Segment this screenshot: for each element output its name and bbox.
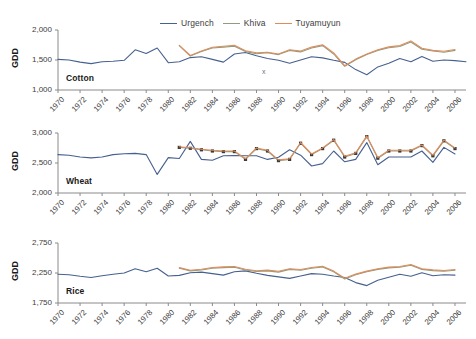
x-tick-label: 1972 [65, 198, 88, 221]
x-tick-label: 1978 [131, 198, 154, 221]
x-tick-label: 1994 [308, 198, 331, 221]
x-tick-label: 1984 [197, 198, 220, 221]
legend-item-khiva[interactable]: Khiva [223, 18, 266, 28]
x-tick-label: 1974 [87, 308, 110, 331]
x-tick-label: 1984 [197, 308, 220, 331]
x-tick-label: 1976 [109, 95, 132, 118]
x-tick-label: 1982 [175, 95, 198, 118]
x-tick-label: 1978 [131, 308, 154, 331]
x-tick-label: 2000 [374, 198, 397, 221]
x-tick-label: 1990 [264, 95, 287, 118]
x-tick-label: 1996 [330, 198, 353, 221]
x-tick-label: 1980 [153, 308, 176, 331]
x-tick-label: 1982 [175, 308, 198, 331]
legend-label-khiva: Khiva [244, 18, 266, 28]
x-tick-label: 1970 [43, 198, 66, 221]
x-tick-label: 1984 [197, 95, 220, 118]
panel-wheat: GDD2,0002,5003,000Wheat19701972197419761… [0, 133, 476, 223]
x-tick-label: 1992 [286, 198, 309, 221]
legend-label-urgench: Urgench [181, 18, 214, 28]
x-tick-label: 1978 [131, 95, 154, 118]
legend-label-tuyamuyun: Tuyamuyun [296, 18, 341, 28]
x-tick-label: 1988 [242, 308, 265, 331]
x-axis-labels-rice: 1970197219741976197819801982198419861988… [0, 306, 476, 339]
x-tick-label: 1982 [175, 198, 198, 221]
plot-area-rice [0, 243, 476, 305]
x-tick-label: 2002 [396, 308, 419, 331]
x-tick-label: 2000 [374, 95, 397, 118]
panel-rice: GDD1,7502,2502,750Rice197019721974197619… [0, 243, 476, 333]
x-tick-label: 1994 [308, 95, 331, 118]
x-axis-labels-wheat: 1970197219741976197819801982198419861988… [0, 196, 476, 230]
x-tick-label: 1986 [219, 95, 242, 118]
line-swatch-icon [223, 23, 240, 24]
x-tick-label: 2006 [440, 198, 463, 221]
x-tick-label: 1988 [242, 198, 265, 221]
x-tick-label: 1998 [352, 95, 375, 118]
x-tick-label: 1990 [264, 308, 287, 331]
plot-area-cotton [0, 30, 476, 92]
x-tick-label: 1992 [286, 95, 309, 118]
x-tick-label: 1992 [286, 308, 309, 331]
x-tick-label: 1974 [87, 95, 110, 118]
x-tick-label: 1994 [308, 308, 331, 331]
x-tick-label: 2002 [396, 198, 419, 221]
x-tick-label: 1972 [65, 308, 88, 331]
line-swatch-icon [160, 23, 177, 24]
x-tick-label: 2004 [418, 308, 441, 331]
x-tick-label: 1986 [219, 198, 242, 221]
x-tick-label: 1976 [109, 308, 132, 331]
x-tick-label: 1988 [242, 95, 265, 118]
x-tick-label: 1970 [43, 95, 66, 118]
x-tick-label: 1974 [87, 198, 110, 221]
x-tick-label: 2000 [374, 308, 397, 331]
x-tick-label: 1990 [264, 198, 287, 221]
x-tick-label: 2002 [396, 95, 419, 118]
x-tick-label: 2004 [418, 95, 441, 118]
x-tick-label: 1970 [43, 308, 66, 331]
x-tick-label: 1972 [65, 95, 88, 118]
chart-legend: Urgench Khiva Tuyamuyun [160, 16, 400, 30]
x-tick-label: 2006 [440, 95, 463, 118]
x-tick-label: 2006 [440, 308, 463, 331]
x-tick-label: 1976 [109, 198, 132, 221]
x-tick-label: 1996 [330, 308, 353, 331]
x-tick-label: 2004 [418, 198, 441, 221]
panel-cotton: GDD1,0001,5002,000Cotton1970197219741976… [0, 30, 476, 120]
x-tick-label: 1998 [352, 308, 375, 331]
x-tick-label: 1986 [219, 308, 242, 331]
x-tick-label: 1998 [352, 198, 375, 221]
x-tick-label: 1980 [153, 198, 176, 221]
gdd-multi-panel-chart: Urgench Khiva Tuyamuyun x GDD1,0001,5002… [0, 0, 476, 339]
x-tick-label: 1996 [330, 95, 353, 118]
legend-item-urgench[interactable]: Urgench [160, 18, 214, 28]
x-tick-label: 1980 [153, 95, 176, 118]
x-axis-labels-cotton: 1970197219741976197819801982198419861988… [0, 93, 476, 127]
plot-area-wheat [0, 133, 476, 195]
line-swatch-icon [275, 23, 292, 24]
legend-item-tuyamuyun[interactable]: Tuyamuyun [275, 18, 341, 28]
